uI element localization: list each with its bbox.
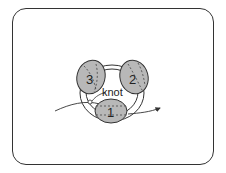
lobe-1-label: 1 <box>107 105 114 120</box>
thread-in <box>55 102 100 111</box>
lobe-1: 1 <box>95 99 127 123</box>
lobe-3-label: 3 <box>86 72 93 87</box>
knot-diagram: 3 2 1 knot <box>0 0 226 173</box>
knot-point <box>88 100 92 104</box>
thread-out <box>128 108 160 114</box>
knot-label: knot <box>102 86 123 98</box>
lobe-2-label: 2 <box>129 72 136 87</box>
